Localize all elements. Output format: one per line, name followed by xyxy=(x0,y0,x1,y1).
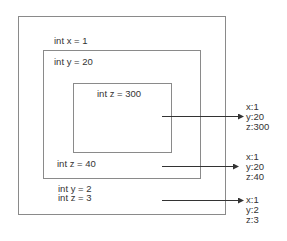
result-line: z:3 xyxy=(246,215,259,225)
result-middle-scope: x:1 y:20 z:40 xyxy=(246,152,264,182)
arrows xyxy=(0,0,287,241)
result-outer-scope: x:1 y:2 z:3 xyxy=(246,195,259,225)
result-line: z:300 xyxy=(246,122,269,132)
scope-diagram: int x = 1 int y = 20 int z = 300 int z =… xyxy=(0,0,287,241)
result-inner-scope: x:1 y:20 z:300 xyxy=(246,102,269,132)
result-line: z:40 xyxy=(246,172,264,182)
